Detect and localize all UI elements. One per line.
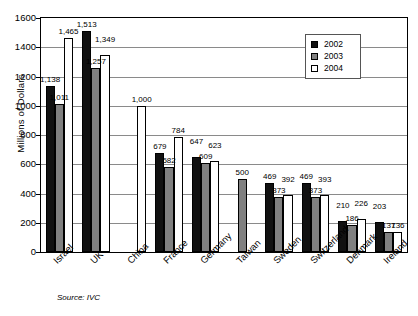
black-square-swatch-icon [311,41,318,48]
bar[interactable] [174,137,183,252]
bar[interactable] [100,55,109,252]
bar[interactable] [137,106,146,252]
bar-value-label: 203 [369,203,391,211]
bar-value-label: 1,465 [58,28,80,36]
legend-item[interactable]: 2002 [311,39,355,50]
bar[interactable] [55,104,64,252]
legend-item-label: 2004 [324,64,343,73]
bar-chart: Millions of Dollars 16001400120010008006… [0,0,418,316]
bar-value-label: 582 [158,157,180,165]
bar-group [41,18,78,252]
y-axis-tick-label: 1400 [2,42,36,51]
bar[interactable] [91,68,100,252]
y-axis-tick-label: 1200 [2,72,36,81]
bar-value-label: 679 [149,143,171,151]
legend-item[interactable]: 2003 [311,51,355,62]
bar[interactable] [164,167,173,252]
bar-group [78,18,115,252]
bar-value-label: 393 [314,176,336,184]
bar-value-label: 1,257 [85,58,107,66]
y-axis-tick-label: 1600 [2,13,36,22]
bar-value-label: 623 [204,142,226,150]
bar-value-label: 1,011 [48,94,70,102]
bar-value-label: 186 [341,215,363,223]
bar-group [224,18,261,252]
y-axis-tick-label: 1000 [2,101,36,110]
bar[interactable] [201,163,210,252]
bar-value-label: 1,138 [39,76,61,84]
legend: 2002 2003 2004 [305,34,361,79]
bar-value-label: 609 [195,153,217,161]
bar-value-label: 373 [268,187,290,195]
bar-value-label: 1,513 [76,21,98,29]
bar-group [261,18,298,252]
bar[interactable] [192,157,201,252]
y-axis-tick-label: 600 [2,159,36,168]
bar[interactable] [311,197,320,252]
legend-item-label: 2002 [324,40,343,49]
bar[interactable] [155,153,164,252]
bar-group [114,18,151,252]
bar-value-label: 1,000 [131,96,153,104]
y-axis-tick-label: 0 [2,247,36,256]
bar[interactable] [46,86,55,252]
gray-square-swatch-icon [311,53,318,60]
bar-value-label: 1,349 [94,36,116,44]
bar-value-label: 784 [167,127,189,135]
source-note: Source: IVC [57,293,100,302]
y-axis-tick-label: 200 [2,218,36,227]
bar-group [187,18,224,252]
bar-value-label: 500 [231,169,253,177]
y-axis-tick-label: 400 [2,189,36,198]
bar-group [370,18,407,252]
y-axis-title: Millions of Dollars [15,34,26,194]
bar-value-label: 136 [387,222,409,230]
bar[interactable] [238,179,247,252]
legend-item-label: 2003 [324,52,343,61]
bar-value-label: 373 [305,187,327,195]
legend-item[interactable]: 2004 [311,63,355,74]
y-axis-tick-label: 800 [2,130,36,139]
bar[interactable] [64,38,73,252]
white-square-swatch-icon [311,65,318,72]
bar[interactable] [274,197,283,252]
